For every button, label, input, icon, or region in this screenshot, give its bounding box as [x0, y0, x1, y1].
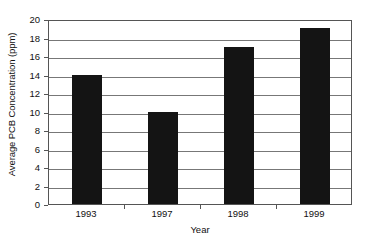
y-tick-label: 16	[8, 52, 40, 62]
x-tick-mark	[276, 205, 277, 209]
bar-1999	[300, 28, 330, 204]
bar-1998	[224, 47, 254, 204]
y-tick-label: 6	[8, 145, 40, 155]
y-tick-label: 8	[8, 126, 40, 136]
y-tick-label: 14	[8, 71, 40, 81]
x-tick-label-1999: 1999	[284, 208, 344, 220]
y-tick-label: 20	[8, 15, 40, 25]
x-axis-title: Year	[48, 224, 352, 235]
x-tick-mark	[124, 205, 125, 209]
y-tick-mark	[44, 205, 48, 206]
y-tick-label: 0	[8, 200, 40, 210]
x-tick-label-1993: 1993	[56, 208, 116, 220]
y-tick-label: 12	[8, 89, 40, 99]
bar-1997	[148, 112, 178, 205]
bar-chart-figure: Average PCB Concentration (ppm) 02468101…	[0, 0, 370, 245]
y-tick-label: 2	[8, 182, 40, 192]
y-tick-label: 4	[8, 163, 40, 173]
x-tick-label-1998: 1998	[208, 208, 268, 220]
plot-area	[48, 20, 352, 205]
x-tick-label-1997: 1997	[132, 208, 192, 220]
y-tick-label: 18	[8, 34, 40, 44]
x-tick-mark	[200, 205, 201, 209]
bar-1993	[72, 75, 102, 205]
y-tick-label: 10	[8, 108, 40, 118]
